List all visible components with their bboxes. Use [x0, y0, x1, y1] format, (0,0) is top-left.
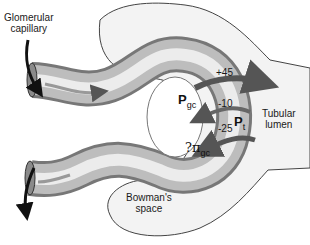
bowmans-label-line2: space — [126, 203, 172, 214]
pigc-symbol: ?πgc — [185, 140, 210, 158]
tubular-lumen-label: Tubular lumen — [262, 108, 296, 130]
pgc-symbol: Pgc — [178, 92, 196, 110]
tubular-label-line2: lumen — [262, 119, 296, 130]
bowmans-space-label: Bowman's space — [126, 192, 172, 214]
glomerular-label-line1: Glomerular — [4, 12, 53, 23]
bowmans-label-line1: Bowman's — [126, 192, 172, 203]
glomerular-capillary-label: Glomerular capillary — [4, 12, 53, 34]
tubular-label-line1: Tubular — [262, 108, 296, 119]
glomerular-capillary-loop — [25, 54, 234, 195]
pigc-value: -25 — [218, 123, 232, 134]
pgc-value: +45 — [216, 67, 233, 78]
glomerular-filtration-diagram: Glomerular capillary Bowman's space Tubu… — [0, 0, 310, 245]
glomerular-label-line2: capillary — [4, 23, 53, 34]
pt-value: -10 — [218, 98, 232, 109]
pt-symbol: Pt — [234, 114, 245, 132]
